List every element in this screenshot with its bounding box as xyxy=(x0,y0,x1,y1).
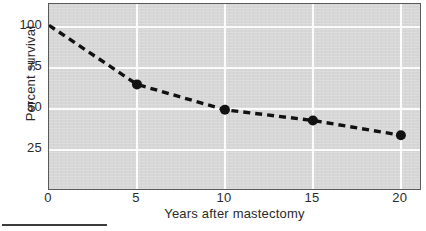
data-point-15 xyxy=(308,115,318,125)
footer-rule xyxy=(2,224,107,226)
x-tick-label-20: 20 xyxy=(380,190,420,205)
y-axis-title: Percent survival xyxy=(23,0,38,154)
data-point-20 xyxy=(396,130,406,140)
series-line-0 xyxy=(49,25,401,135)
x-tick-label-10: 10 xyxy=(204,190,244,205)
data-point-10 xyxy=(220,105,230,115)
x-axis-title: Years after mastectomy xyxy=(48,206,421,221)
figure: 255075100 05101520 Percent survival Year… xyxy=(0,0,426,231)
x-tick-label-15: 15 xyxy=(292,190,332,205)
x-tick-label-5: 5 xyxy=(116,190,156,205)
plot-area xyxy=(48,3,421,190)
x-tick-label-0: 0 xyxy=(28,190,68,205)
data-point-5 xyxy=(132,79,142,89)
survival-curve xyxy=(49,4,421,190)
